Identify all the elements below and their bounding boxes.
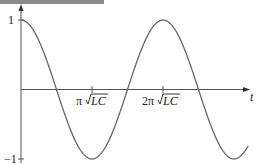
x-axis-arrow-icon — [243, 87, 250, 92]
x-tick-label-pi-sqrt-lc: π LC — [76, 94, 108, 108]
svg-text:LC: LC — [162, 94, 179, 108]
svg-text:π: π — [76, 94, 82, 108]
y-axis-arrow-icon — [19, 4, 24, 11]
x-axis-label: t — [250, 90, 254, 104]
cosine-plot: 1 −1 t π LC 2π LC — [0, 0, 257, 165]
y-label-max: 1 — [8, 13, 14, 27]
y-label-min: −1 — [4, 152, 17, 165]
svg-text:LC: LC — [90, 94, 107, 108]
svg-text:2π: 2π — [142, 94, 154, 108]
x-tick-label-2pi-sqrt-lc: 2π LC — [142, 94, 180, 108]
